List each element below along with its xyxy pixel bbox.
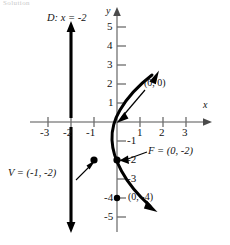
- y-tick-2: 2: [107, 78, 113, 89]
- y-tick-minus4: -4: [104, 192, 113, 203]
- x-tick-minus2: -2: [63, 127, 72, 138]
- x-tick-minus1: -1: [86, 127, 95, 138]
- y-tick-3: 3: [107, 59, 113, 70]
- y-tick-minus2: -2: [127, 154, 136, 165]
- x-tick-3: 3: [182, 127, 188, 138]
- origin-point-label: (0, 0): [144, 78, 166, 88]
- vertex-leader-arrow: [76, 160, 96, 180]
- y-tick-minus1: -1: [127, 135, 136, 146]
- lower-point: [114, 195, 120, 201]
- x-axis-label: x: [203, 100, 207, 110]
- y-tick-1: 1: [108, 97, 114, 108]
- x-axis-arrowhead: [203, 118, 212, 126]
- y-tick-minus5: -5: [104, 211, 113, 222]
- x-tick-minus3: -3: [40, 127, 49, 138]
- lower-point-label: (0, -4): [128, 192, 153, 202]
- y-tick-4: 4: [107, 40, 113, 51]
- x-tick-2: 2: [159, 127, 165, 138]
- directrix-label: D: x = -2: [47, 13, 86, 24]
- focus-point: [113, 156, 120, 163]
- y-axis-arrowhead: [113, 7, 121, 16]
- parabola-diagram: [0, 0, 230, 245]
- y-axis-label: y: [106, 6, 110, 16]
- y-tick-minus3: -3: [127, 173, 136, 184]
- y-tick-5: 5: [107, 21, 113, 32]
- x-tick-1: 1: [137, 127, 143, 138]
- vertex-label: V = (-1, -2): [8, 168, 56, 179]
- focus-label: F = (0, -2): [148, 146, 193, 157]
